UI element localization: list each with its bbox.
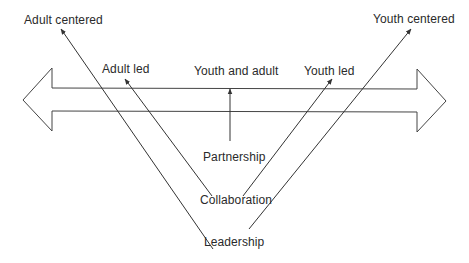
- diagram-canvas: [0, 0, 469, 263]
- label-youth-led: Youth led: [304, 64, 355, 78]
- label-leadership: Leadership: [204, 235, 264, 249]
- label-partnership: Partnership: [203, 150, 265, 164]
- label-youth-centered: Youth centered: [373, 12, 455, 26]
- label-collaboration: Collaboration: [200, 193, 272, 207]
- label-adult-led: Adult led: [102, 62, 150, 76]
- label-youth-and-adult: Youth and adult: [194, 64, 278, 78]
- arrow-leadership-to-youth-centered: [249, 29, 411, 229]
- label-adult-centered: Adult centered: [24, 13, 103, 27]
